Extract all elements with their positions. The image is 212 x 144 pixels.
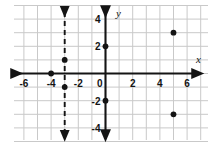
x-tick-label: -2 <box>74 78 83 89</box>
data-point <box>103 43 109 49</box>
x-tick-label: -6 <box>19 78 28 89</box>
data-point <box>62 57 68 63</box>
data-point <box>103 98 109 104</box>
plot-area: -6-4-2024642-2-4 x y <box>0 0 212 144</box>
x-tick-label: 4 <box>157 78 163 89</box>
x-tick-label: 6 <box>184 78 190 89</box>
y-tick-label: -2 <box>92 96 101 107</box>
x-tick-label: -4 <box>47 78 56 89</box>
y-axis-label: y <box>115 7 121 19</box>
y-tick-label: 4 <box>95 14 101 25</box>
data-point <box>171 30 177 36</box>
data-point <box>62 84 68 90</box>
x-axis-label: x <box>195 53 201 65</box>
axis-lines <box>17 12 198 136</box>
y-tick-label: -4 <box>92 123 101 134</box>
data-point <box>48 71 54 77</box>
y-tick-label: 2 <box>95 41 101 52</box>
data-point <box>171 111 177 117</box>
x-tick-label: 2 <box>130 78 136 89</box>
x-tick-label: 0 <box>97 78 103 89</box>
coordinate-plane-figure: -6-4-2024642-2-4 x y <box>0 0 212 144</box>
graph-svg: -6-4-2024642-2-4 x y <box>0 0 212 144</box>
